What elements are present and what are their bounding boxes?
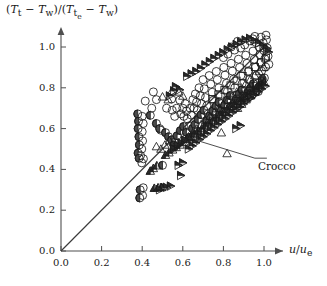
y-tick-label: 1.0 (17, 41, 55, 52)
data-point (228, 67, 236, 75)
data-point (220, 63, 228, 71)
data-point (181, 100, 189, 108)
data-point (146, 111, 154, 119)
data-point (196, 92, 204, 100)
x-axis-arrowhead (275, 248, 283, 255)
crocco-reference-line (61, 47, 264, 251)
data-point (158, 93, 166, 100)
x-tick-label: 0.4 (122, 257, 162, 268)
data-point (134, 125, 142, 133)
data-point (136, 194, 144, 202)
scatter-chart-figure: (Tt − Tw)/(Tte − Tw) u/ue Crocco 0.00.20… (0, 0, 327, 286)
data-point (242, 51, 250, 59)
data-point (199, 76, 207, 84)
y-tick-label: 0.2 (17, 204, 55, 215)
data-markers (134, 31, 273, 202)
data-point (135, 117, 143, 125)
data-point (141, 97, 149, 105)
y-tick-label: 0.0 (17, 245, 55, 256)
data-point (213, 76, 221, 84)
data-point (159, 161, 167, 169)
data-point (262, 31, 270, 39)
data-point (136, 186, 144, 194)
x-tick-label: 0.0 (41, 257, 81, 268)
x-tick-label: 1.0 (244, 257, 284, 268)
y-axis-arrowhead (58, 27, 65, 35)
data-point (134, 110, 142, 118)
data-point (135, 154, 143, 162)
data-point (163, 104, 171, 112)
x-tick-label: 0.6 (163, 257, 203, 268)
data-point (243, 59, 251, 67)
data-point (180, 159, 187, 167)
data-point (205, 72, 213, 80)
x-tick-label: 0.8 (203, 257, 243, 268)
data-point (234, 55, 242, 63)
data-point (149, 88, 157, 96)
y-tick-label: 0.4 (17, 163, 55, 174)
reference-line-crocco (61, 47, 264, 251)
data-point (152, 142, 160, 149)
data-point (217, 128, 225, 135)
data-point (195, 84, 203, 92)
data-point (139, 120, 147, 128)
data-point (212, 67, 220, 75)
y-tick-label: 0.6 (17, 123, 55, 134)
data-point (177, 171, 184, 179)
data-point (221, 71, 229, 79)
data-point (236, 63, 244, 71)
data-point (227, 59, 235, 67)
y-tick-label: 0.8 (17, 82, 55, 93)
x-tick-label: 0.2 (82, 257, 122, 268)
data-point (148, 104, 156, 112)
